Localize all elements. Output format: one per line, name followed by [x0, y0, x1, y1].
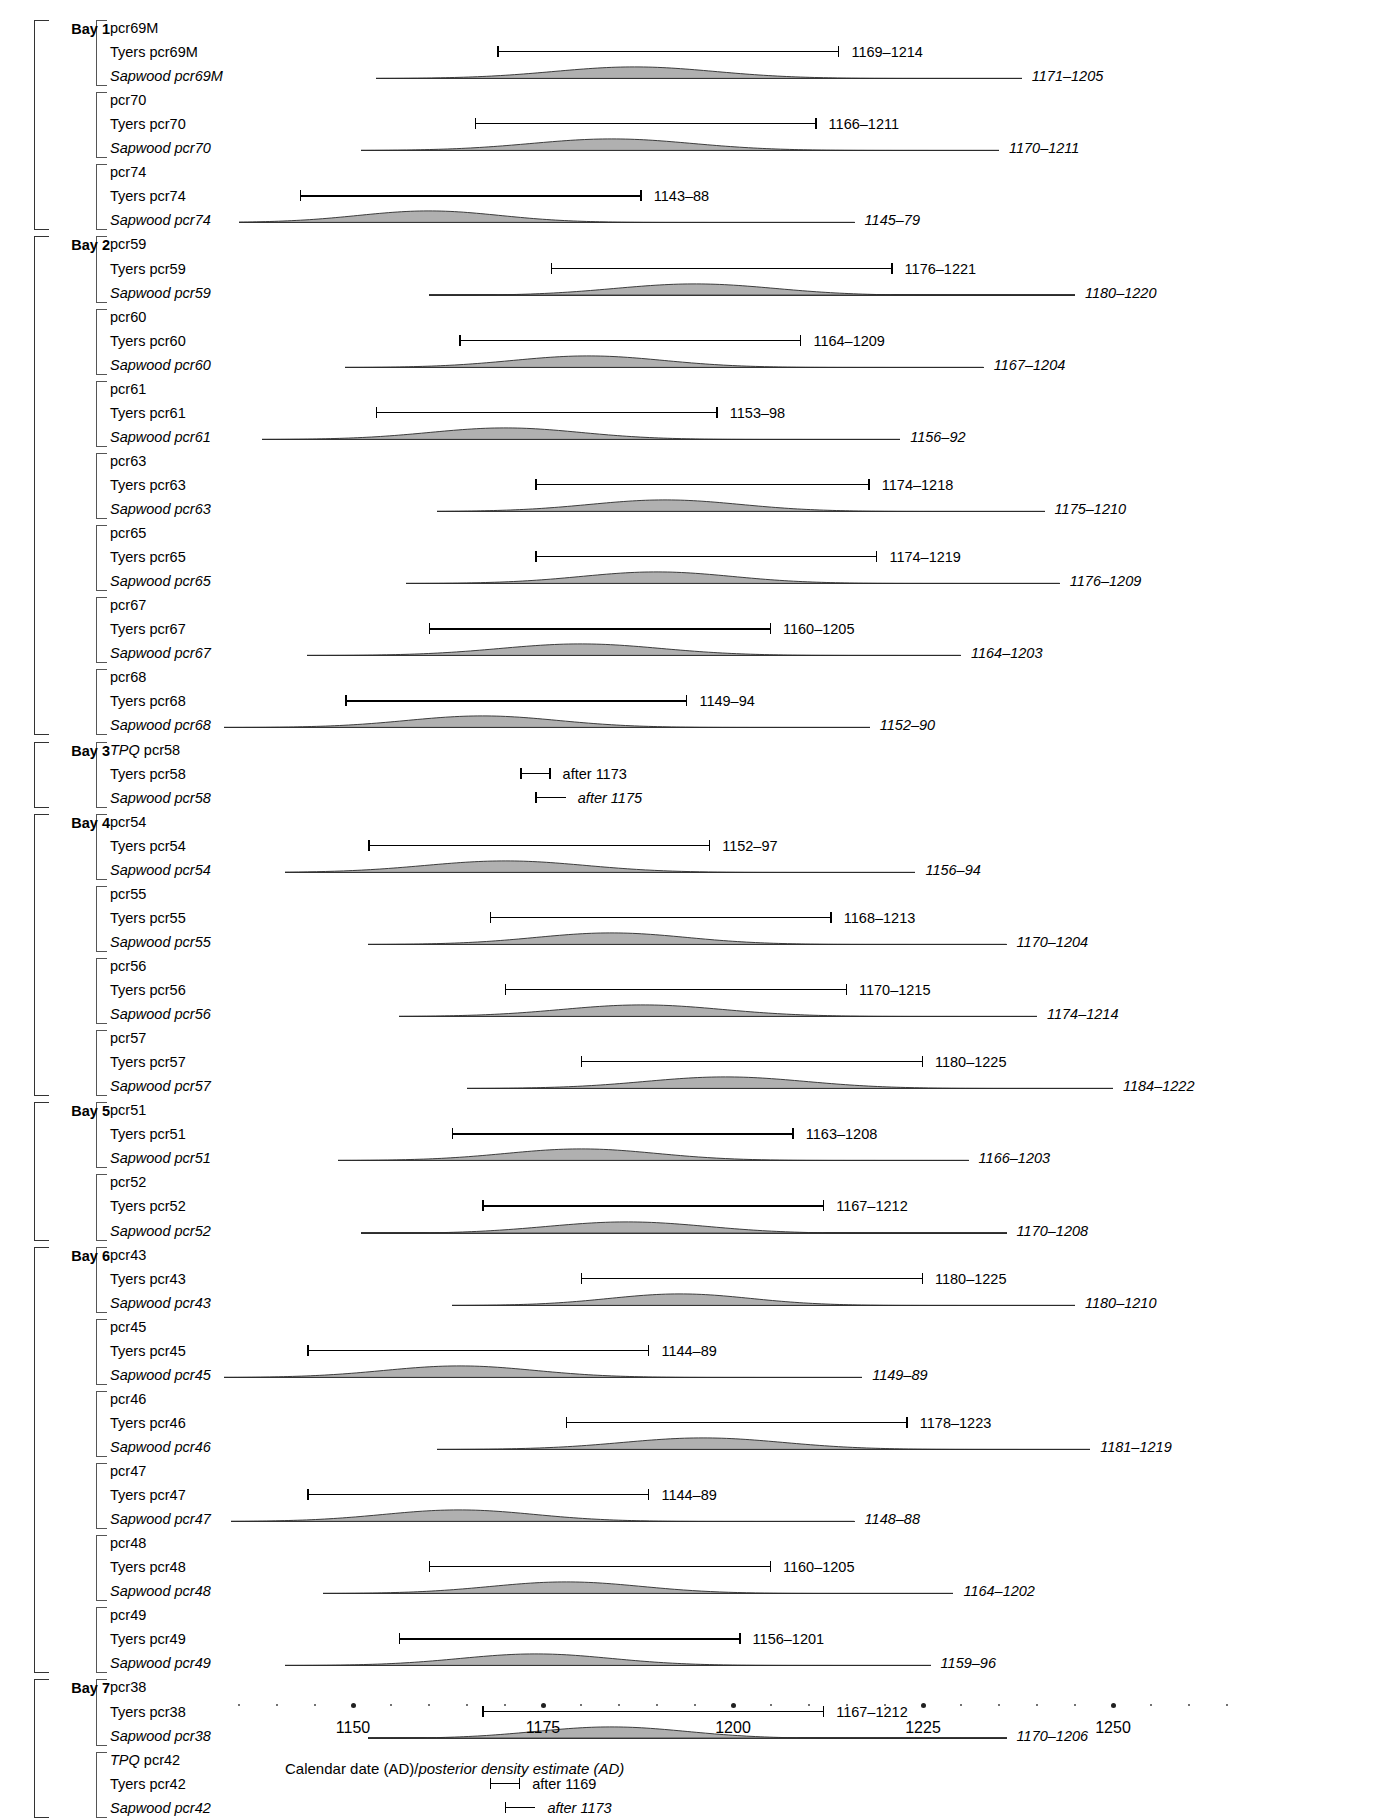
- range-label-pcr55: 1168–1213: [844, 910, 916, 926]
- range-stem: [376, 412, 718, 413]
- row-label-sapwood-pcr43: Sapwood pcr43: [110, 1296, 211, 1310]
- range-label-pcr52: 1167–1212: [836, 1198, 908, 1214]
- axis-tick-label-1175: 1175: [513, 1719, 573, 1737]
- range-cap-left: [490, 912, 491, 923]
- row-label-pcr69M: pcr69M: [110, 21, 158, 35]
- range-bar-pcr51: [452, 1128, 794, 1139]
- posterior-density-pcr48: [323, 1579, 954, 1594]
- posterior-density-pcr51: [338, 1146, 969, 1161]
- bay-label-bay-5: Bay 5: [48, 1103, 110, 1119]
- range-cap-left: [581, 1056, 582, 1067]
- axis-tick-1260: [1188, 1704, 1190, 1706]
- row-label-tyers-pcr68: Tyers pcr68: [110, 694, 186, 708]
- posterior-label-pcr65: 1176–1209: [1070, 573, 1142, 589]
- row-label-pcr74: pcr74: [110, 165, 146, 179]
- row-label-sapwood-pcr49: Sapwood pcr49: [110, 1656, 211, 1670]
- row-label-sapwood-pcr46: Sapwood pcr46: [110, 1440, 211, 1454]
- row-label-sapwood-pcr60: Sapwood pcr60: [110, 358, 211, 372]
- posterior-label-pcr47: 1148–88: [865, 1511, 920, 1527]
- range-bar-pcr69M: [497, 46, 839, 57]
- group-bracket-pcr45: [96, 1319, 107, 1385]
- range-cap-left: [482, 1706, 483, 1717]
- tpq-prefix: TPQ: [110, 1752, 144, 1768]
- row-label-sapwood-pcr74: Sapwood pcr74: [110, 213, 211, 227]
- row-label-tyers-pcr56: Tyers pcr56: [110, 983, 186, 997]
- range-bar-pcr74: [300, 190, 642, 201]
- posterior-label-pcr38: 1170–1206: [1017, 1728, 1089, 1744]
- range-bar-pcr46: [566, 1417, 908, 1428]
- posterior-label-pcr61: 1156–92: [910, 429, 965, 445]
- range-bar-pcr67: [429, 623, 771, 634]
- range-cap-right: [770, 1561, 771, 1572]
- bay-bracket-bay-5: [34, 1102, 49, 1240]
- axis-tick-1165: [466, 1704, 468, 1706]
- axis-tick-1230: [960, 1704, 962, 1706]
- posterior-density-pcr57: [467, 1074, 1113, 1089]
- range-stem: [399, 1638, 741, 1639]
- density-curve: [239, 208, 855, 223]
- posterior-label-pcr43: 1180–1210: [1085, 1295, 1157, 1311]
- row-label-tyers-pcr54: Tyers pcr54: [110, 839, 186, 853]
- bay-label-bay-3: Bay 3: [48, 743, 110, 759]
- tpq-stem: [535, 797, 565, 798]
- range-cap-right: [922, 1273, 923, 1284]
- axis-tick-1175: [541, 1703, 546, 1708]
- bay-label-bay-1: Bay 1: [48, 21, 110, 37]
- density-curve: [368, 930, 1006, 945]
- group-bracket-pcr55: [96, 886, 107, 952]
- sample-id: pcr58: [144, 742, 180, 758]
- posterior-density-pcr45: [224, 1363, 862, 1378]
- group-bracket-pcr61: [96, 381, 107, 447]
- row-label-pcr63: pcr63: [110, 454, 146, 468]
- range-label-pcr47: 1144–89: [661, 1487, 716, 1503]
- range-label-pcr58: after 1173: [563, 766, 627, 782]
- range-stem: [535, 556, 877, 557]
- range-bar-pcr54: [368, 840, 710, 851]
- row-label-sapwood-pcr47: Sapwood pcr47: [110, 1512, 211, 1526]
- range-bar-pcr56: [505, 984, 847, 995]
- density-curve: [307, 641, 961, 656]
- posterior-label-pcr54: 1156–94: [925, 862, 980, 878]
- range-bar-pcr45: [307, 1345, 649, 1356]
- range-bar-pcr65: [535, 551, 877, 562]
- posterior-label-pcr60: 1167–1204: [994, 357, 1066, 373]
- range-cap-left: [459, 335, 460, 346]
- range-cap-right: [846, 984, 847, 995]
- range-stem: [520, 773, 550, 774]
- row-label-tyers-pcr55: Tyers pcr55: [110, 911, 186, 925]
- bay-bracket-bay-2: [34, 236, 49, 735]
- range-cap-right: [640, 190, 641, 201]
- row-label-tyers-pcr67: Tyers pcr67: [110, 622, 186, 636]
- range-cap-left: [505, 984, 506, 995]
- tpq-prefix: TPQ: [110, 742, 144, 758]
- posterior-label-pcr57: 1184–1222: [1123, 1078, 1195, 1094]
- posterior-density-pcr69M: [376, 64, 1022, 79]
- row-label-sapwood-pcr61: Sapwood pcr61: [110, 430, 211, 444]
- density-curve: [224, 1363, 862, 1378]
- range-cap-left: [429, 1561, 430, 1572]
- range-cap-right: [823, 1200, 824, 1211]
- posterior-label-pcr56: 1174–1214: [1047, 1006, 1119, 1022]
- range-cap-left: [452, 1128, 453, 1139]
- posterior-density-pcr61: [262, 425, 900, 440]
- posterior-label-pcr46: 1181–1219: [1100, 1439, 1172, 1455]
- bay-bracket-bay-6: [34, 1247, 49, 1674]
- group-bracket-pcr56: [96, 958, 107, 1024]
- density-curve: [376, 64, 1022, 79]
- range-cap-right: [792, 1128, 793, 1139]
- group-bracket-pcr70: [96, 92, 107, 158]
- density-curve: [285, 858, 916, 873]
- row-label-sapwood-pcr68: Sapwood pcr68: [110, 718, 211, 732]
- row-label-sapwood-pcr51: Sapwood pcr51: [110, 1151, 211, 1165]
- posterior-density-pcr59: [429, 281, 1075, 296]
- range-cap-left: [376, 407, 377, 418]
- range-label-pcr56: 1170–1215: [859, 982, 931, 998]
- range-stem: [566, 1422, 908, 1423]
- range-label-pcr42: after 1169: [532, 1776, 596, 1792]
- range-bar-pcr58: [520, 768, 550, 779]
- row-label-tyers-pcr69M: Tyers pcr69M: [110, 45, 198, 59]
- tpq-marker-pcr58: [535, 792, 565, 803]
- bay-bracket-bay-3: [34, 742, 49, 808]
- row-label-tyers-pcr63: Tyers pcr63: [110, 478, 186, 492]
- range-stem: [429, 628, 771, 629]
